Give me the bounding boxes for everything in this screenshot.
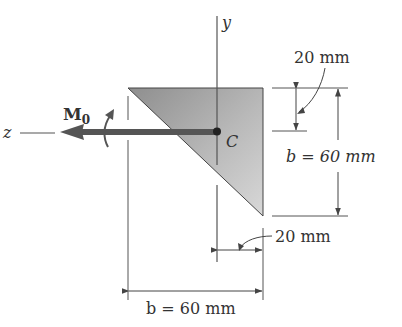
triangular-section bbox=[128, 88, 263, 216]
y-axis-label: y bbox=[221, 13, 232, 32]
z-axis-label: z bbox=[2, 123, 12, 142]
right-offset-dimension bbox=[218, 236, 272, 251]
centroid-point bbox=[213, 128, 221, 136]
moment-label: M0 bbox=[63, 104, 90, 127]
moment-rotation-icon bbox=[104, 109, 114, 147]
top-offset-label: 20 mm bbox=[294, 48, 350, 67]
centroid-label: C bbox=[226, 132, 238, 151]
right-offset-label: 20 mm bbox=[275, 227, 331, 246]
width-label: b = 60 mm bbox=[146, 299, 236, 318]
beam-cross-section-diagram: y z M0 C 20 mm b = 6 bbox=[0, 0, 402, 327]
top-offset-dimension bbox=[296, 68, 325, 130]
height-label: b = 60 mm bbox=[286, 147, 376, 166]
